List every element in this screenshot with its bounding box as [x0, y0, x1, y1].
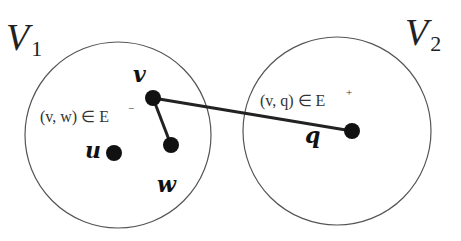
set-label-v1: V1 [6, 16, 42, 61]
node-label-q: q [305, 122, 320, 148]
graph-diagram: V1V2(v, w) ∈ E−(v, q) ∈ E+vwuq [0, 0, 461, 241]
edge-label-v-q: (v, q) ∈ E [260, 92, 325, 110]
node-u [106, 145, 122, 161]
node-label-u: u [85, 137, 101, 163]
node-label-v: v [133, 61, 146, 87]
node-w [163, 137, 179, 153]
node-v [145, 90, 161, 106]
edge-sign-positive: + [346, 86, 352, 98]
set-circle-v2 [243, 37, 431, 225]
edge-sign-negative: − [128, 102, 134, 114]
set-circle-v1 [25, 42, 211, 228]
edge-label-v-w: (v, w) ∈ E [40, 108, 109, 126]
node-q [344, 123, 360, 139]
node-label-w: w [157, 171, 177, 197]
set-label-v2: V2 [405, 11, 441, 56]
